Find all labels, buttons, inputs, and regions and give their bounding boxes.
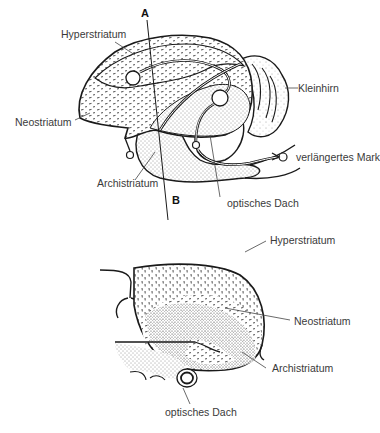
label-archistriatum-lower: Archistriatum — [272, 363, 333, 374]
section-marker-b: B — [172, 195, 180, 206]
label-hyperstriatum-lower: Hyperstriatum — [270, 235, 335, 246]
label-neostriatum-lower: Neostriatum — [294, 316, 351, 327]
upper-brain-diagram — [75, 20, 300, 220]
section-marker-a: A — [141, 8, 149, 19]
lower-brain-diagram — [100, 241, 290, 404]
label-optisches-dach-upper: optisches Dach — [227, 198, 299, 209]
label-hyperstriatum-upper: Hyperstriatum — [61, 29, 126, 40]
label-verlaengertes-mark: verlängertes Mark — [296, 152, 380, 163]
label-archistriatum-upper: Archistriatum — [97, 178, 158, 189]
label-neostriatum-upper: Neostriatum — [15, 117, 72, 128]
label-optisches-dach-lower: optisches Dach — [165, 407, 237, 418]
label-kleinhirn: Kleinhirn — [298, 83, 339, 94]
